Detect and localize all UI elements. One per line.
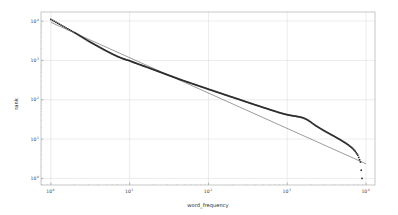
svg-text:1: 1 (131, 188, 133, 192)
svg-text:2: 2 (210, 188, 212, 192)
svg-text:0: 0 (53, 188, 55, 192)
svg-text:10: 10 (31, 176, 37, 181)
svg-text:10: 10 (31, 97, 37, 102)
figure-background (0, 0, 398, 215)
svg-text:4: 4 (37, 18, 39, 22)
svg-text:10: 10 (31, 19, 37, 24)
zipf-log-log-scatter-plot: 100101102103104 100101102103104 word_fre… (0, 0, 398, 215)
x-axis-title: word_frequency (187, 202, 228, 209)
svg-text:10: 10 (31, 58, 37, 63)
svg-text:3: 3 (289, 188, 291, 192)
svg-text:4: 4 (368, 188, 370, 192)
chart-figure: 100101102103104 100101102103104 word_fre… (0, 0, 398, 215)
y-axis-title: rank (13, 98, 19, 110)
svg-text:10: 10 (31, 137, 37, 142)
svg-text:10: 10 (283, 189, 289, 194)
svg-text:10: 10 (125, 189, 131, 194)
svg-text:1: 1 (37, 136, 39, 140)
svg-text:3: 3 (37, 57, 39, 61)
svg-text:0: 0 (37, 175, 39, 179)
svg-text:10: 10 (46, 189, 52, 194)
svg-text:2: 2 (37, 96, 39, 100)
svg-text:10: 10 (204, 189, 210, 194)
svg-text:10: 10 (361, 189, 367, 194)
